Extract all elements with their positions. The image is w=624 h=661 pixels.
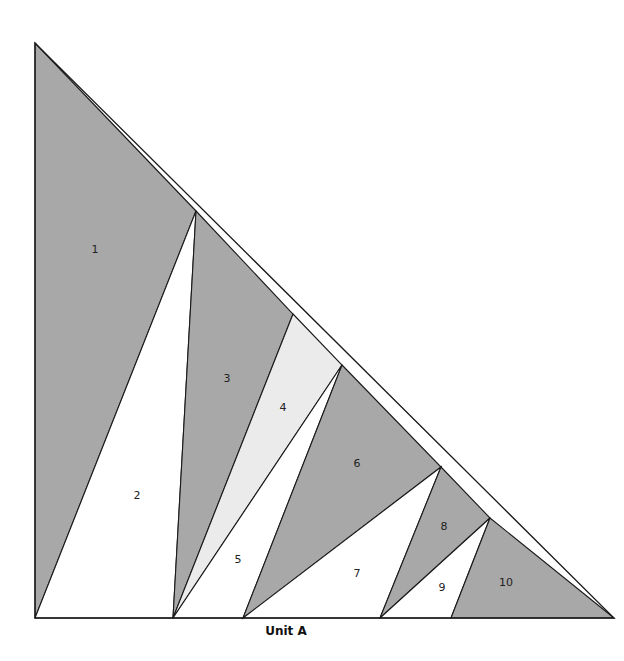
piece-label-7: 7	[354, 567, 361, 580]
piece-label-3: 3	[224, 372, 231, 385]
piece-label-4: 4	[280, 401, 287, 414]
piece-label-9: 9	[439, 581, 446, 594]
piece-label-10: 10	[499, 576, 513, 589]
paper-piecing-diagram: 12345678910	[0, 0, 624, 661]
unit-title: Unit A	[265, 624, 307, 638]
piece-label-1: 1	[92, 243, 99, 256]
piece-label-6: 6	[354, 457, 361, 470]
piece-label-2: 2	[134, 489, 141, 502]
unit-caption: Unit A	[0, 624, 624, 638]
piece-label-5: 5	[235, 553, 242, 566]
piece-label-8: 8	[441, 520, 448, 533]
